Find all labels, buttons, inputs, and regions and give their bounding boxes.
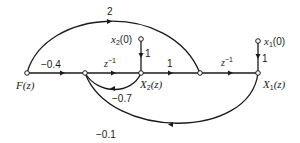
gain-F-to-B: 2 xyxy=(107,6,113,17)
label-x1-initial: x1(0) xyxy=(263,35,285,48)
node-x1-initial xyxy=(256,39,261,44)
node-x2-initial xyxy=(139,37,144,42)
label-X1: X1(z) xyxy=(262,78,286,91)
node-A xyxy=(83,71,88,76)
gain-A-to-X2: z−1 xyxy=(103,57,116,69)
arrow-icon xyxy=(110,86,115,91)
arrow-icon xyxy=(111,71,116,76)
signal-flow-graph: F(z) X2(z) X1(z) x2(0) x1(0) −0.4 z−1 1 … xyxy=(0,0,300,143)
arrow-icon xyxy=(107,19,112,24)
gain-X2-to-A: −0.7 xyxy=(112,93,132,104)
gain-x1init-to-X1: 1 xyxy=(262,53,268,64)
gain-x2init-to-X2: 1 xyxy=(145,48,151,59)
gain-F-to-A: −0.4 xyxy=(41,59,61,70)
arrow-icon xyxy=(60,71,65,76)
arrow-icon xyxy=(139,53,144,58)
arrow-icon xyxy=(228,71,233,76)
label-F: F(z) xyxy=(15,79,35,92)
node-B xyxy=(198,71,203,76)
arrow-icon xyxy=(168,71,173,76)
node-X1 xyxy=(256,71,261,76)
node-F xyxy=(25,71,30,76)
label-x2-initial: x2(0) xyxy=(110,33,132,46)
node-X2 xyxy=(139,71,144,76)
gain-X2-to-B: 1 xyxy=(167,58,173,69)
gain-X1-to-A: −0.1 xyxy=(96,129,116,140)
label-X2: X2(z) xyxy=(139,78,163,91)
edge-X1-to-A xyxy=(85,73,258,123)
arrow-icon xyxy=(256,54,261,59)
gain-B-to-X1: z−1 xyxy=(220,56,233,68)
